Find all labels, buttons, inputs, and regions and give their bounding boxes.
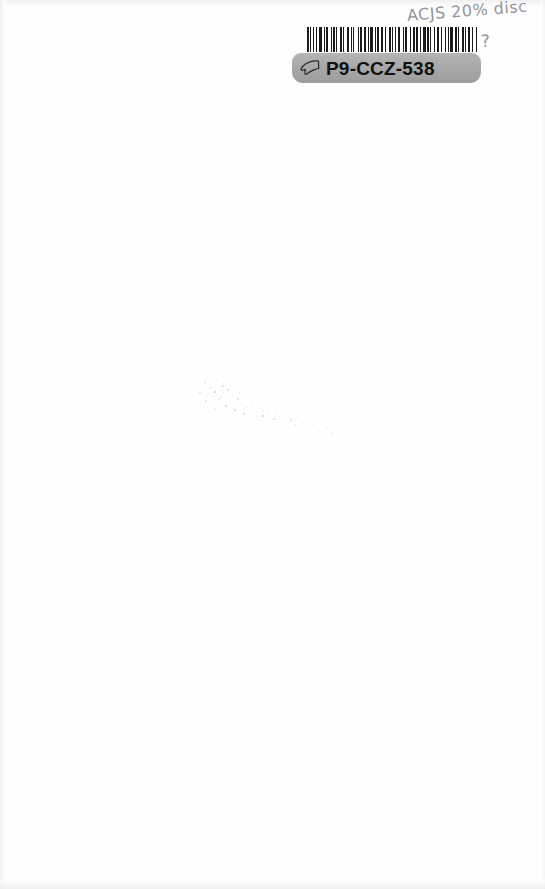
scan-edge-left bbox=[0, 0, 6, 889]
scan-edge-bottom bbox=[0, 879, 545, 889]
scan-edge-right bbox=[540, 0, 545, 889]
id-sticker: P9-CCZ-538 bbox=[292, 53, 481, 83]
barcode bbox=[307, 27, 478, 52]
faint-speckle-trail bbox=[196, 378, 346, 448]
handwritten-note: ACJS 20% disc bbox=[406, 0, 528, 25]
handwritten-question-mark: ? bbox=[480, 31, 490, 51]
scanned-page: ACJS 20% disc ? P9-CCZ-538 bbox=[0, 0, 545, 889]
sticker-id-code: P9-CCZ-538 bbox=[326, 59, 435, 78]
pointing-hand-icon bbox=[298, 58, 322, 78]
